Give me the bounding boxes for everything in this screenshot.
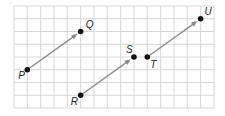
point-dot bbox=[78, 92, 84, 98]
point-label: Q bbox=[86, 19, 94, 30]
point-label: U bbox=[205, 6, 213, 17]
point-P: P bbox=[18, 67, 30, 81]
point-dot bbox=[25, 67, 31, 73]
vector-RS bbox=[81, 59, 131, 95]
point-dot bbox=[131, 54, 137, 60]
point-label: P bbox=[18, 70, 25, 81]
arrowhead-icon bbox=[191, 21, 197, 27]
arrowhead-icon bbox=[124, 59, 130, 65]
point-label: T bbox=[150, 59, 157, 70]
point-dot bbox=[78, 29, 84, 35]
vectors bbox=[27, 21, 197, 95]
arrowhead-icon bbox=[71, 34, 77, 40]
point-dot bbox=[198, 16, 204, 22]
vector-grid-diagram: PQRSTU bbox=[0, 0, 225, 116]
point-label: S bbox=[126, 44, 133, 55]
vector-TU bbox=[147, 21, 197, 57]
point-dot bbox=[145, 54, 151, 60]
point-label: R bbox=[71, 96, 78, 107]
point-R: R bbox=[71, 92, 84, 107]
vector-PQ bbox=[27, 34, 77, 70]
